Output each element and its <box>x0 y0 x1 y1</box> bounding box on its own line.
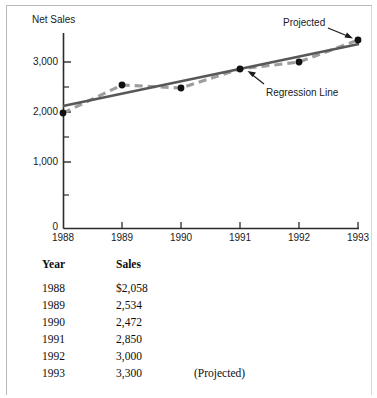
x-axis-ticks <box>122 222 358 229</box>
table-row: 1988 $2,058 <box>42 279 245 296</box>
cell-sales: 3,300 <box>116 364 194 381</box>
net-sales-chart: Net Sales <box>0 0 377 250</box>
annotation-projected: Projected <box>283 17 325 28</box>
cell-note: (Projected) <box>194 364 245 381</box>
x-tick-label-1991: 1991 <box>220 232 260 243</box>
cell-note <box>194 296 245 313</box>
regression-arrow <box>248 71 265 84</box>
x-tick-label-1992: 1992 <box>279 232 319 243</box>
table-row: 1990 2,472 <box>42 313 245 330</box>
cell-year: 1990 <box>42 313 116 330</box>
cell-note <box>194 330 245 347</box>
table-row: 1989 2,534 <box>42 296 245 313</box>
table-row: 1992 3,000 <box>42 347 245 364</box>
y-tick-label-0: 0 <box>16 221 58 232</box>
cell-year: 1988 <box>42 279 116 296</box>
x-tick-label-1988: 1988 <box>43 232 83 243</box>
cell-sales: 2,850 <box>116 330 194 347</box>
annotation-regression-line: Regression Line <box>266 87 338 98</box>
x-tick-label-1990: 1990 <box>161 232 201 243</box>
table-row: 1993 3,300 (Projected) <box>42 364 245 381</box>
column-header-sales: Sales <box>116 258 194 279</box>
chart-plot <box>0 0 377 250</box>
cell-note <box>194 313 245 330</box>
figure-page: Net Sales <box>0 0 377 398</box>
y-tick-label-3000: 3,000 <box>16 56 58 67</box>
cell-year: 1993 <box>42 364 116 381</box>
cell-sales: 2,472 <box>116 313 194 330</box>
cell-note <box>194 279 245 296</box>
x-tick-label-1993: 1993 <box>338 232 377 243</box>
cell-year: 1991 <box>42 330 116 347</box>
x-tick-label-1989: 1989 <box>102 232 142 243</box>
table-header-row: Year Sales <box>42 258 245 279</box>
y-axis-ticks <box>64 62 72 195</box>
cell-year: 1992 <box>42 347 116 364</box>
cell-sales: 3,000 <box>116 347 194 364</box>
cell-sales: 2,534 <box>116 296 194 313</box>
column-header-note <box>194 258 245 279</box>
projected-arrow <box>328 28 353 39</box>
column-header-year: Year <box>42 258 116 279</box>
cell-note <box>194 347 245 364</box>
cell-year: 1989 <box>42 296 116 313</box>
y-tick-label-2000: 2,000 <box>16 106 58 117</box>
cell-sales: $2,058 <box>116 279 194 296</box>
y-tick-label-1000: 1,000 <box>16 156 58 167</box>
sales-data-table: Year Sales 1988 $2,058 1989 2,534 1990 <box>0 258 377 381</box>
table-row: 1991 2,850 <box>42 330 245 347</box>
